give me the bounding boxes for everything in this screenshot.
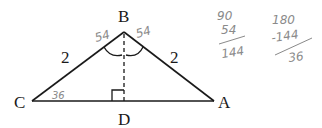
vertex-label-b: B bbox=[118, 7, 129, 26]
vertex-label-d: D bbox=[118, 110, 130, 128]
handwritten-difference: 180 -144 36 bbox=[270, 13, 312, 65]
sum-result: 144 bbox=[220, 44, 245, 61]
angle-arc-left bbox=[104, 47, 122, 56]
sum-rule bbox=[219, 36, 245, 44]
sum-line2: 54 bbox=[221, 23, 236, 37]
angle-c-note: 36 bbox=[52, 90, 65, 101]
diff-line1: 180 bbox=[272, 13, 295, 27]
sum-line1: 90 bbox=[217, 9, 233, 23]
vertex-label-a: A bbox=[218, 93, 231, 112]
right-angle-mark bbox=[112, 90, 124, 101]
diff-result: 36 bbox=[287, 49, 304, 65]
side-label-bc: 2 bbox=[61, 48, 70, 67]
angle-arc-right bbox=[126, 47, 143, 56]
vertex-label-c: C bbox=[14, 93, 25, 112]
side-bc bbox=[32, 32, 124, 101]
side-label-ba: 2 bbox=[170, 48, 179, 67]
handwritten-sum: 90 54 144 bbox=[217, 9, 245, 61]
diff-line2: -144 bbox=[270, 27, 299, 45]
angle-b-right-note: 54 bbox=[134, 23, 152, 40]
triangle-diagram: B C A D 2 2 54 54 36 90 54 144 180 -144 … bbox=[0, 0, 322, 128]
angle-b-left-note: 54 bbox=[93, 27, 111, 44]
side-ba bbox=[124, 32, 214, 101]
